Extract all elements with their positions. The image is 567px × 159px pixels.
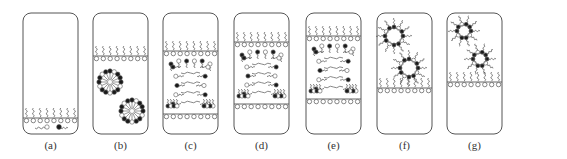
panel-label-b: (b) [106, 139, 136, 151]
panel-a [23, 13, 78, 134]
panel-e [306, 13, 361, 134]
panel-label-f: (f) [390, 139, 420, 151]
panel-g [447, 13, 502, 134]
panel-label-a: (a) [36, 139, 66, 151]
container-box [23, 13, 78, 134]
panel-b [93, 13, 148, 134]
panel-label-e: (e) [319, 139, 349, 151]
container-box [306, 13, 361, 134]
panel-f [376, 13, 432, 134]
figure-canvas [0, 0, 567, 159]
panel-label-d: (d) [247, 139, 277, 151]
panel-d [234, 13, 289, 134]
panel-label-c: (c) [176, 139, 206, 151]
panel-c [163, 13, 218, 134]
panel-label-g: (g) [460, 139, 490, 151]
